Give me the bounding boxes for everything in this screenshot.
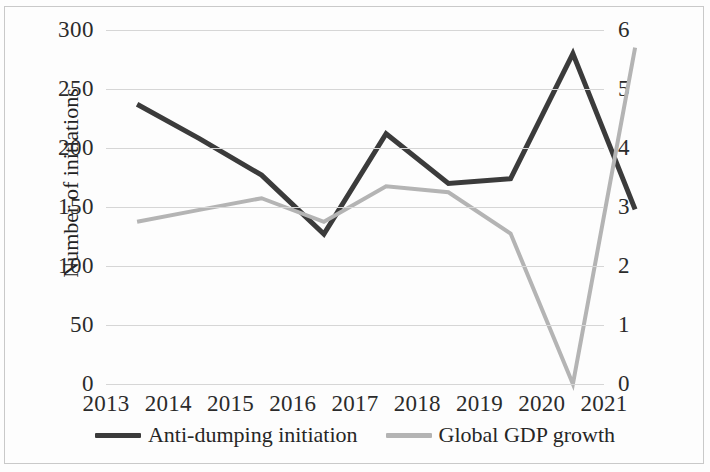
y-axis-tick-label: 150 — [30, 195, 94, 218]
secondary-y-axis-tick-label: 3 — [618, 195, 658, 218]
gridline — [106, 266, 604, 267]
x-axis-tick-label: 2017 — [322, 392, 388, 415]
x-axis-tick-label: 2021 — [571, 392, 637, 415]
x-axis-tick-label: 2020 — [509, 392, 575, 415]
y-axis-tick-label: 200 — [30, 136, 94, 159]
secondary-y-axis-tick-label: 1 — [618, 313, 658, 336]
chart-legend: Anti-dumping initiationGlobal GDP growth — [0, 424, 710, 446]
x-axis-tick-label: 2018 — [384, 392, 450, 415]
x-axis-tick-label: 2016 — [260, 392, 326, 415]
gridline — [106, 30, 604, 31]
legend-item[interactable]: Global GDP growth — [386, 424, 615, 446]
y-axis-tick-label: 300 — [30, 18, 94, 41]
secondary-y-axis-tick-label: 6 — [618, 18, 658, 41]
legend-line-swatch — [386, 433, 432, 438]
secondary-y-axis-tick-label: 2 — [618, 254, 658, 277]
y-axis-tick-label: 100 — [30, 254, 94, 277]
gridline — [106, 207, 604, 208]
secondary-y-axis-tick-label: 5 — [618, 77, 658, 100]
chart-container: Number of initiations Annual GDP percent… — [0, 0, 710, 472]
legend-line-swatch — [95, 433, 141, 438]
secondary-y-axis-tick-label: 4 — [618, 136, 658, 159]
y-axis-tick-label: 250 — [30, 77, 94, 100]
series-line — [137, 48, 635, 384]
x-axis-tick-label: 2015 — [198, 392, 264, 415]
gridline — [106, 89, 604, 90]
plot-area — [106, 30, 604, 384]
x-axis-tick-label: 2019 — [447, 392, 513, 415]
gridline — [106, 384, 604, 385]
y-axis-tick-label: 50 — [30, 313, 94, 336]
legend-label: Anti-dumping initiation — [148, 424, 358, 446]
x-axis-tick-label: 2013 — [73, 392, 139, 415]
gridline — [106, 325, 604, 326]
legend-label: Global GDP growth — [439, 424, 615, 446]
y-axis-title: Number of initiations — [58, 88, 84, 277]
x-axis-tick-label: 2014 — [135, 392, 201, 415]
gridline — [106, 148, 604, 149]
legend-item[interactable]: Anti-dumping initiation — [95, 424, 358, 446]
